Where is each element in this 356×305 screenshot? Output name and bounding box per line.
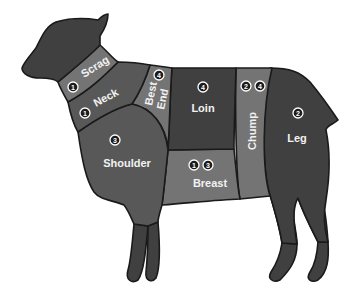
- badge-breast-1: 1: [189, 160, 199, 170]
- svg-text:4: 4: [157, 72, 161, 79]
- badge-neck: 1: [80, 108, 90, 118]
- cut-leg[interactable]: [264, 68, 338, 244]
- svg-text:1: 1: [71, 84, 75, 91]
- lamb-cuts-diagram: Scrag Neck Best End Loin Chump Leg Shoul…: [0, 0, 356, 305]
- label-breast: Breast: [193, 177, 228, 189]
- badge-chump-1: 2: [241, 81, 251, 91]
- badge-shoulder: 3: [110, 135, 120, 145]
- svg-text:3: 3: [206, 162, 210, 169]
- svg-text:3: 3: [113, 137, 117, 144]
- svg-text:4: 4: [258, 83, 262, 90]
- badge-best-end: 4: [154, 70, 164, 80]
- fore-leg-left: [146, 222, 159, 281]
- svg-text:1: 1: [192, 162, 196, 169]
- label-chump: Chump: [246, 112, 258, 150]
- svg-text:2: 2: [244, 83, 248, 90]
- fore-leg-right: [127, 224, 148, 282]
- badge-chump-2: 4: [255, 81, 265, 91]
- label-leg: Leg: [287, 132, 307, 144]
- badge-breast-2: 3: [203, 160, 213, 170]
- badge-loin: 4: [198, 82, 208, 92]
- label-loin: Loin: [191, 102, 214, 114]
- svg-text:4: 4: [201, 84, 205, 91]
- badge-scrag: 1: [68, 82, 78, 92]
- label-shoulder: Shoulder: [103, 157, 151, 169]
- badge-leg: 2: [293, 108, 303, 118]
- svg-text:2: 2: [296, 110, 300, 117]
- svg-text:1: 1: [83, 110, 87, 117]
